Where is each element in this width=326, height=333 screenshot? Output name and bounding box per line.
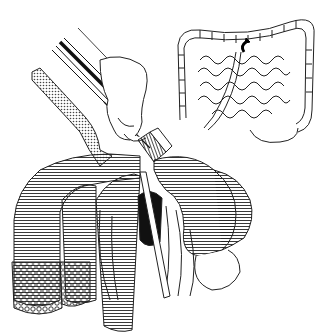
medical-illustration (0, 0, 326, 333)
inset-intestines (178, 20, 314, 143)
hand (100, 57, 147, 141)
colon (12, 154, 252, 331)
